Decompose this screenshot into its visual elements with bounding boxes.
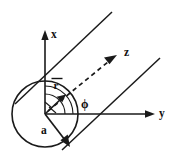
coordinate-diagram: x y z r a ϕ (0, 0, 173, 162)
z-axis-label: z (124, 46, 129, 58)
r-vector-tick-2 (45, 102, 52, 108)
radius-a-label: a (41, 124, 47, 136)
y-axis-arrowhead (145, 110, 155, 117)
a-vector-line (45, 114, 65, 140)
figure-canvas: x y z r a ϕ (0, 0, 173, 162)
x-axis-arrowhead (41, 30, 48, 40)
r-vector-label: r (54, 79, 59, 91)
cylinder-line-upper (15, 12, 112, 104)
x-axis-label: x (51, 28, 57, 40)
y-axis-label: y (159, 107, 165, 120)
y-axis (45, 110, 155, 117)
x-axis (41, 30, 48, 114)
radius-vector-a (45, 114, 70, 147)
cylinder-generator-lines (15, 12, 160, 150)
azimuth-angle-label: ϕ (81, 97, 89, 111)
